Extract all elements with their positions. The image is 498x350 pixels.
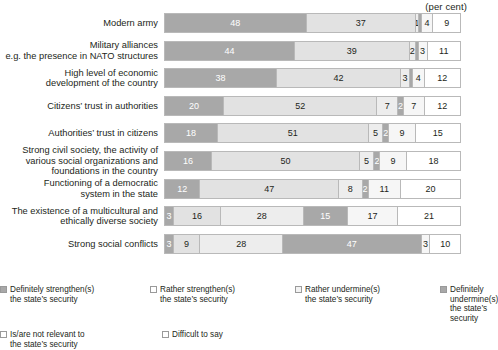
stacked-bar: 165052918 <box>164 151 461 171</box>
bar-segment-not-relevant: 4 <box>422 14 434 32</box>
chart-legend: Definitely strengthen(s)the state’s secu… <box>0 285 480 350</box>
row-label: High level of economicdevelopment of the… <box>0 68 164 89</box>
bar-segment-rather-strengthens: 51 <box>218 124 368 142</box>
bar-segment-not-relevant: 17 <box>348 207 398 225</box>
legend-label: Rather undermine(s)the state’s security <box>305 285 380 304</box>
bar-segment-not-relevant: 7 <box>404 97 425 115</box>
bar-segment-not-relevant: 9 <box>389 124 416 142</box>
bar-segment-rather-strengthens: 16 <box>174 207 221 225</box>
legend-swatch-icon <box>295 286 302 293</box>
stacked-bar: 392847310 <box>164 234 461 254</box>
bar-segment-not-relevant: 11 <box>369 180 401 198</box>
stacked-bar: 185152915 <box>164 123 461 143</box>
bar-segment-difficult-to-say: 9 <box>433 14 460 32</box>
legend-item-rather-strengthens[interactable]: Rather strengthen(s)the state’s security <box>150 285 295 304</box>
stacked-bar-chart: Modern army4837149Military alliancese.g.… <box>0 12 480 260</box>
bar-segment-rather-strengthens: 42 <box>277 69 401 87</box>
chart-row: Strong civil society, the activity ofvar… <box>0 150 480 172</box>
legend-row-secondary: Is/are not relevant tothe state’s securi… <box>0 330 480 349</box>
row-label: The existence of a multicultural andethi… <box>0 206 164 227</box>
legend-item-rather-undermines[interactable]: Rather undermine(s)the state’s security <box>295 285 440 304</box>
bar-segment-rather-undermines: 3 <box>401 69 410 87</box>
bar-segment-rather-undermines: 7 <box>377 97 398 115</box>
row-label: Authorities’ trust in citizens <box>0 128 164 138</box>
chart-row: High level of economicdevelopment of the… <box>0 67 480 89</box>
row-label: Functioning of a democraticsystem in the… <box>0 178 164 199</box>
bar-segment-rather-undermines: 28 <box>200 235 283 253</box>
bar-segment-definitely-strengthens: 16 <box>165 152 212 170</box>
bar-segment-rather-strengthens: 9 <box>174 235 201 253</box>
bar-segment-not-relevant: 9 <box>380 152 407 170</box>
bar-segment-definitely-strengthens: 3 <box>165 207 174 225</box>
legend-swatch-icon <box>440 286 447 293</box>
stacked-bar: 4837149 <box>164 13 461 33</box>
legend-label: Rather strengthen(s)the state’s security <box>160 285 235 304</box>
legend-swatch-icon <box>150 286 157 293</box>
row-label: Strong civil society, the activity ofvar… <box>0 145 164 176</box>
unit-caption: (per cent) <box>425 1 467 12</box>
bar-segment-rather-strengthens: 47 <box>200 180 339 198</box>
stacked-bar: 31628151721 <box>164 206 461 226</box>
bar-segment-definitely-strengthens: 44 <box>165 42 295 60</box>
legend-label: Definitely strengthen(s)the state’s secu… <box>10 285 94 304</box>
bar-segment-difficult-to-say: 11 <box>428 42 460 60</box>
bar-segment-rather-strengthens: 50 <box>212 152 360 170</box>
bar-segment-definitely-strengthens: 12 <box>165 180 200 198</box>
bar-segment-difficult-to-say: 10 <box>430 235 460 253</box>
legend-swatch-icon <box>0 286 7 293</box>
legend-item-not-relevant[interactable]: Is/are not relevant tothe state’s securi… <box>0 330 150 349</box>
bar-segment-rather-strengthens: 37 <box>307 14 416 32</box>
row-label: Military alliancese.g. the presence in N… <box>0 40 164 61</box>
bar-segment-rather-undermines: 28 <box>221 207 304 225</box>
bar-segment-rather-strengthens: 39 <box>295 42 410 60</box>
stacked-bar: 44392311 <box>164 41 461 61</box>
bar-segment-difficult-to-say: 18 <box>407 152 460 170</box>
legend-label: Definitely undermine(s)the state’s secur… <box>450 285 498 323</box>
legend-item-difficult-to-say[interactable]: Difficult to say <box>162 330 223 340</box>
legend-label: Difficult to say <box>172 330 223 340</box>
bar-segment-not-relevant: 3 <box>419 42 428 60</box>
legend-item-definitely-undermines[interactable]: Definitely undermine(s)the state’s secur… <box>440 285 498 323</box>
bar-segment-not-relevant: 3 <box>422 235 431 253</box>
bar-segment-definitely-strengthens: 18 <box>165 124 218 142</box>
row-label: Modern army <box>0 18 164 28</box>
chart-row: Modern army4837149 <box>0 12 480 34</box>
bar-segment-not-relevant: 4 <box>413 69 425 87</box>
bar-segment-definitely-strengthens: 38 <box>165 69 277 87</box>
row-label: Citizens’ trust in authorities <box>0 101 164 111</box>
chart-row: Strong social conflicts392847310 <box>0 233 480 255</box>
bar-segment-difficult-to-say: 12 <box>425 97 460 115</box>
bar-segment-rather-undermines: 8 <box>339 180 363 198</box>
bar-segment-difficult-to-say: 15 <box>416 124 460 142</box>
chart-row: Citizens’ trust in authorities205272712 <box>0 95 480 117</box>
legend-swatch-icon <box>0 331 7 338</box>
legend-swatch-icon <box>162 331 169 338</box>
bar-segment-definitely-strengthens: 3 <box>165 235 174 253</box>
chart-row: Authorities’ trust in citizens185152915 <box>0 122 480 144</box>
chart-row: Military alliancese.g. the presence in N… <box>0 40 480 62</box>
stacked-bar: 38423412 <box>164 68 461 88</box>
bar-segment-difficult-to-say: 20 <box>401 180 460 198</box>
chart-row: Functioning of a democraticsystem in the… <box>0 178 480 200</box>
bar-segment-definitely-strengthens: 48 <box>165 14 307 32</box>
bar-segment-rather-strengthens: 52 <box>224 97 377 115</box>
legend-row-primary: Definitely strengthen(s)the state’s secu… <box>0 285 480 323</box>
bar-segment-definitely-undermines: 15 <box>304 207 348 225</box>
chart-row: The existence of a multicultural andethi… <box>0 205 480 227</box>
legend-item-definitely-strengthens[interactable]: Definitely strengthen(s)the state’s secu… <box>0 285 150 304</box>
bar-segment-definitely-strengthens: 20 <box>165 97 224 115</box>
bar-segment-difficult-to-say: 21 <box>398 207 460 225</box>
bar-segment-difficult-to-say: 12 <box>425 69 460 87</box>
bar-segment-rather-undermines: 5 <box>369 124 384 142</box>
legend-label: Is/are not relevant tothe state’s securi… <box>10 330 85 349</box>
bar-segment-definitely-undermines: 47 <box>283 235 422 253</box>
stacked-bar: 1247821120 <box>164 179 461 199</box>
row-label: Strong social conflicts <box>0 239 164 249</box>
stacked-bar: 205272712 <box>164 96 461 116</box>
bar-segment-rather-undermines: 5 <box>360 152 375 170</box>
